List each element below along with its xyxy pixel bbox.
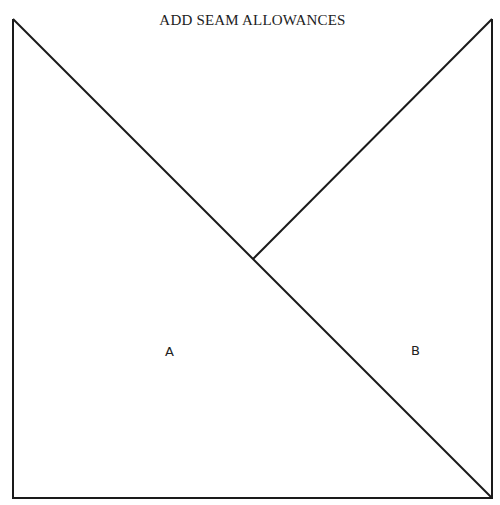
piece-label-b: B	[411, 343, 420, 358]
quilt-block-diagram	[0, 0, 500, 505]
partial-diagonal	[253, 19, 492, 259]
piece-label-a: A	[165, 344, 174, 359]
